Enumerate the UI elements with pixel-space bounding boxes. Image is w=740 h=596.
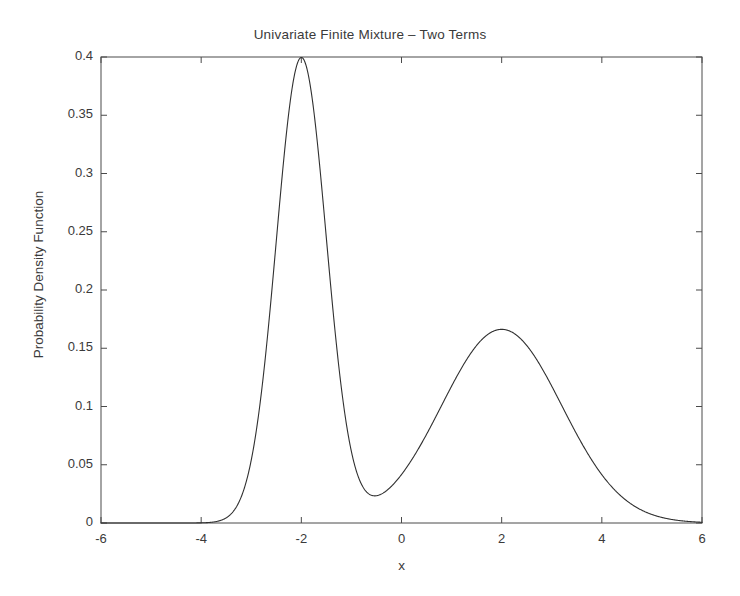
x-tick-label: -2 — [281, 531, 321, 546]
x-tick-label: 6 — [682, 531, 722, 546]
chart-figure: Univariate Finite Mixture – Two Terms Pr… — [0, 0, 740, 596]
x-tick-label: 4 — [582, 531, 622, 546]
y-tick-label: 0.25 — [33, 223, 93, 238]
y-tick-label: 0 — [33, 514, 93, 529]
x-tick-label: -6 — [81, 531, 121, 546]
y-tick-label: 0.4 — [33, 48, 93, 63]
x-tick-label: -4 — [181, 531, 221, 546]
x-tick-label: 2 — [482, 531, 522, 546]
y-tick-label: 0.3 — [33, 165, 93, 180]
y-tick-label: 0.2 — [33, 281, 93, 296]
x-tick-label: 0 — [382, 531, 422, 546]
y-tick-label: 0.05 — [33, 456, 93, 471]
axis-ticks — [101, 57, 702, 523]
y-tick-label: 0.35 — [33, 106, 93, 121]
axes-box — [101, 57, 702, 523]
plot-canvas — [0, 0, 740, 596]
density-curve — [101, 57, 702, 523]
y-tick-label: 0.1 — [33, 398, 93, 413]
y-tick-label: 0.15 — [33, 339, 93, 354]
